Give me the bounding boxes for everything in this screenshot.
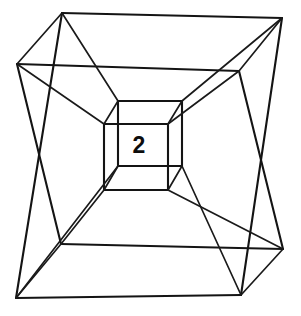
outer-cube-frame: [16, 13, 282, 298]
center-cell-label: 2: [133, 132, 146, 158]
middle-cube-right-edge: [239, 71, 283, 249]
connector-middle-tr-innerfront-tr: [168, 71, 239, 124]
inner-depth-br: [168, 166, 182, 190]
outer-cube-top-edge: [62, 13, 282, 18]
inner-cube-back-face: [118, 101, 182, 166]
tesseract-figure: 2: [0, 0, 301, 316]
connector-outer-br-inner-br: [182, 166, 241, 295]
connector-outer-bl-inner-bl: [16, 166, 118, 298]
inner-depth-tl: [104, 101, 118, 124]
connector-middle-br-innerfront-br: [168, 190, 283, 249]
tesseract-drawing: 2: [0, 0, 301, 316]
connector-outer-tl-inner-tl: [62, 13, 118, 101]
middle-cube-bottom-edge: [61, 244, 283, 249]
outer-cube-bottom-edge: [16, 295, 241, 298]
inner-depth-tr: [168, 101, 182, 124]
middle-cube-top-edge: [17, 64, 239, 71]
connector-outer-tr-inner-tr: [182, 18, 282, 101]
connector-middle-bl-innerfront-bl: [61, 190, 104, 244]
outer-cube-right-edge: [241, 18, 282, 295]
middle-cube-left-edge: [17, 64, 61, 244]
